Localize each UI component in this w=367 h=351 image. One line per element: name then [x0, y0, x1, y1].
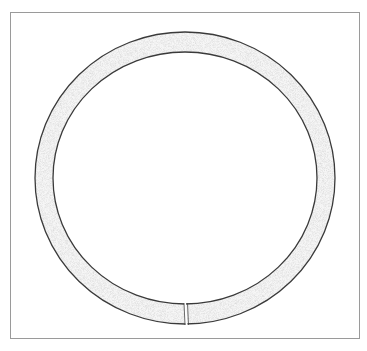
ring-illustration: [0, 0, 367, 351]
